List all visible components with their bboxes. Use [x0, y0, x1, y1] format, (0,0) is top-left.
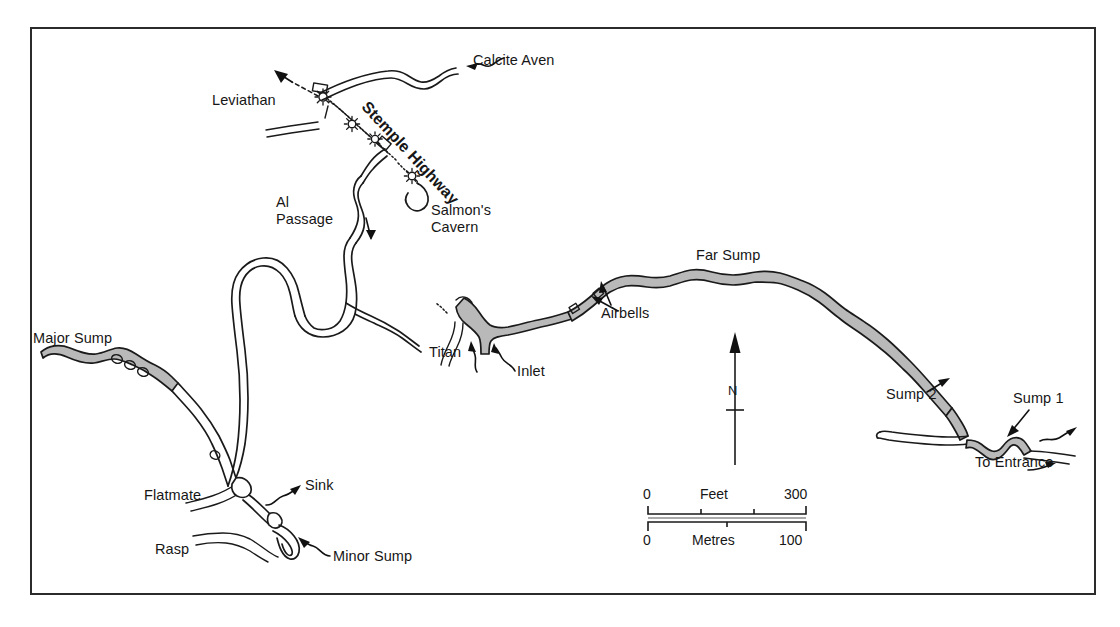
passage-major-sump	[41, 346, 178, 391]
passage-west-side-branch	[266, 106, 328, 137]
passage-inlet-chamber	[456, 298, 572, 354]
passage-calcite-aven-route	[320, 68, 458, 100]
label-leviathan: Leviathan	[212, 92, 276, 108]
passage-midsection	[346, 303, 421, 352]
cave-survey-linework	[0, 0, 1120, 627]
label-flatmate: Flatmate	[144, 487, 201, 503]
north-arrow	[726, 332, 744, 465]
passage-al-neck	[350, 176, 376, 243]
passage-leviathan-branch	[274, 70, 318, 96]
label-sink: Sink	[305, 477, 334, 493]
label-salmons-cavern: Salmon's Cavern	[431, 202, 491, 235]
passage-southwest-trunk	[172, 383, 236, 486]
label-far-sump: Far Sump	[696, 247, 760, 263]
passage-rock-pillars	[110, 353, 221, 460]
figure-page: Calcite Aven Leviathan Stemple Highway A…	[0, 0, 1120, 627]
label-rasp: Rasp	[155, 541, 189, 557]
scale-metres-unit: Metres	[692, 532, 735, 548]
passage-al-passage	[295, 238, 357, 337]
label-major-sump: Major Sump	[33, 330, 112, 346]
scale-bar	[648, 506, 806, 531]
scale-feet-start: 0	[643, 486, 651, 502]
label-inlet: Inlet	[517, 363, 545, 379]
label-sump-2: Sump 2	[886, 386, 937, 402]
passage-al-loop-west	[228, 258, 305, 486]
north-arrow-label: N	[728, 383, 737, 398]
label-al-passage: Al Passage	[276, 194, 333, 227]
scale-feet-end: 300	[784, 486, 807, 502]
scale-metres-start: 0	[643, 532, 651, 548]
passage-sump2-return	[877, 431, 968, 445]
scale-feet-unit: Feet	[700, 486, 728, 502]
label-sump-1: Sump 1	[1013, 390, 1064, 406]
label-calcite-aven: Calcite Aven	[473, 52, 555, 68]
label-al-passage-line2: Passage	[276, 211, 333, 228]
label-minor-sump: Minor Sump	[333, 548, 412, 564]
passage-rasp	[193, 533, 278, 562]
label-to-entrance: To Entrance	[975, 454, 1053, 470]
scale-metres-end: 100	[779, 532, 802, 548]
label-al-passage-line1: Al	[276, 194, 333, 211]
passage-sump2-limb	[946, 408, 968, 440]
label-airbells: Airbells	[601, 305, 649, 321]
label-titan: Titan	[429, 344, 461, 360]
label-salmons-cavern-line2: Cavern	[431, 219, 491, 236]
label-salmons-cavern-line1: Salmon's	[431, 202, 491, 219]
